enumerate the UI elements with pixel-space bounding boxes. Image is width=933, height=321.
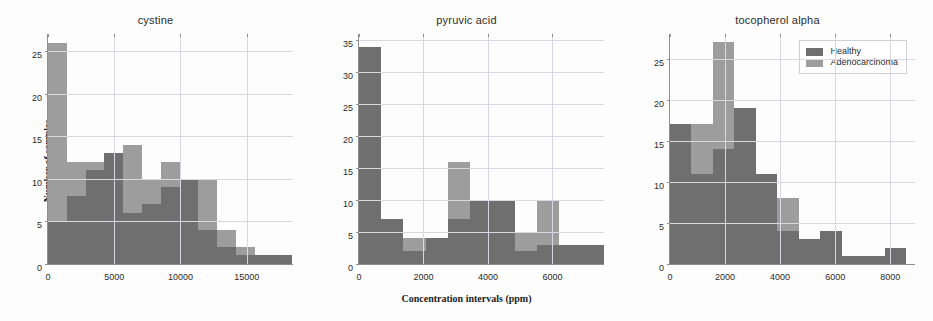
y-tick-mark [667, 223, 670, 224]
plot-area: 051015202530350200040006000 [358, 34, 604, 265]
x-tick-label: 0 [667, 273, 672, 282]
plot-area: Healthy Adenocarcinoma 05101520250200040… [669, 34, 915, 265]
gridline-vertical [890, 34, 891, 264]
gridline-horizontal [48, 179, 293, 180]
y-tick-mark [667, 182, 670, 183]
histogram-bar [820, 231, 841, 264]
y-tick-label: 15 [343, 168, 353, 177]
gridline-vertical [247, 34, 248, 264]
chart-title: pyruvic acid [311, 14, 622, 26]
histogram-bar [537, 245, 559, 264]
y-tick-mark [356, 232, 359, 233]
y-tick-mark [45, 94, 48, 95]
y-tick-label: 15 [32, 136, 42, 145]
gridline-horizontal [48, 136, 293, 137]
gridline-vertical [488, 34, 489, 264]
histogram-bar [734, 108, 755, 264]
x-tick-label: 0 [356, 273, 361, 282]
gridline-horizontal [670, 59, 915, 60]
y-tick-label: 10 [32, 178, 42, 187]
chart-panel-cystine: cystine Number of samples 05101520250500… [0, 0, 311, 321]
gridline-horizontal [359, 72, 604, 73]
gridline-vertical [725, 34, 726, 264]
histogram-bar [426, 238, 448, 264]
gridline-vertical [835, 34, 836, 264]
histogram-bar [863, 256, 884, 264]
histogram-bar [217, 247, 236, 264]
x-tick-label: 2000 [413, 273, 433, 282]
y-tick-mark [667, 264, 670, 265]
legend-swatch-icon [806, 48, 823, 56]
x-tick-mark [48, 34, 49, 37]
histogram-bar [48, 221, 67, 264]
gridline-horizontal [359, 232, 604, 233]
x-tick-mark [725, 34, 726, 37]
x-tick-mark [180, 34, 181, 37]
x-tick-mark [114, 34, 115, 37]
y-tick-label: 20 [343, 136, 353, 145]
y-tick-mark [45, 51, 48, 52]
x-tick-mark [890, 34, 891, 37]
x-axis-label: Concentration intervals (ppm) [311, 293, 622, 304]
chart-title: tocopherol alpha [622, 14, 933, 26]
y-tick-label: 5 [37, 221, 42, 230]
chart-panel-tocopherol-alpha: tocopherol alpha Healthy Adenocarcinoma … [622, 0, 933, 321]
x-tick-label: 10000 [168, 273, 193, 282]
x-tick-mark [552, 34, 553, 37]
y-tick-mark [356, 264, 359, 265]
y-tick-label: 0 [659, 264, 664, 273]
figure-root: cystine Number of samples 05101520250500… [0, 0, 933, 321]
y-tick-label: 35 [343, 40, 353, 49]
histogram-bar [581, 245, 603, 264]
histogram-bar [86, 170, 105, 264]
y-tick-label: 25 [654, 58, 664, 67]
histogram-bar [691, 174, 712, 264]
gridline-horizontal [670, 182, 915, 183]
y-tick-mark [356, 104, 359, 105]
gridline-horizontal [359, 40, 604, 41]
bars-layer [359, 34, 604, 264]
histogram-bar [515, 251, 537, 264]
gridline-vertical [552, 34, 553, 264]
chart-title: cystine [0, 14, 311, 26]
histogram-bar [236, 255, 255, 264]
y-tick-label: 10 [654, 181, 664, 190]
plot-area: 0510152025050001000015000 [47, 34, 293, 265]
gridline-vertical [180, 34, 181, 264]
histogram-bar [381, 219, 403, 264]
histogram-bar [403, 251, 425, 264]
y-tick-label: 0 [37, 264, 42, 273]
histogram-bar [198, 230, 217, 264]
y-tick-mark [356, 200, 359, 201]
x-tick-mark [835, 34, 836, 37]
gridline-horizontal [359, 168, 604, 169]
gridline-horizontal [359, 104, 604, 105]
y-tick-label: 20 [654, 99, 664, 108]
histogram-bar [885, 248, 906, 264]
gridline-vertical [780, 34, 781, 264]
gridline-horizontal [48, 51, 293, 52]
gridline-horizontal [48, 94, 293, 95]
chart-panel-pyruvic-acid: pyruvic acid 051015202530350200040006000… [311, 0, 622, 321]
y-tick-mark [45, 179, 48, 180]
gridline-horizontal [670, 100, 915, 101]
histogram-bar [161, 187, 180, 264]
y-tick-label: 25 [343, 104, 353, 113]
y-tick-mark [356, 72, 359, 73]
gridline-horizontal [359, 200, 604, 201]
legend-swatch-icon [806, 59, 823, 67]
gridline-horizontal [670, 141, 915, 142]
y-tick-label: 20 [32, 93, 42, 102]
histogram-bar [756, 174, 777, 264]
y-tick-mark [356, 168, 359, 169]
histogram-bar [842, 256, 863, 264]
x-tick-mark [670, 34, 671, 37]
x-tick-mark [423, 34, 424, 37]
y-tick-mark [667, 100, 670, 101]
y-tick-label: 5 [659, 222, 664, 231]
y-tick-label: 5 [348, 232, 353, 241]
x-tick-mark [780, 34, 781, 37]
y-tick-label: 30 [343, 72, 353, 81]
x-tick-mark [359, 34, 360, 37]
x-tick-label: 0 [45, 273, 50, 282]
